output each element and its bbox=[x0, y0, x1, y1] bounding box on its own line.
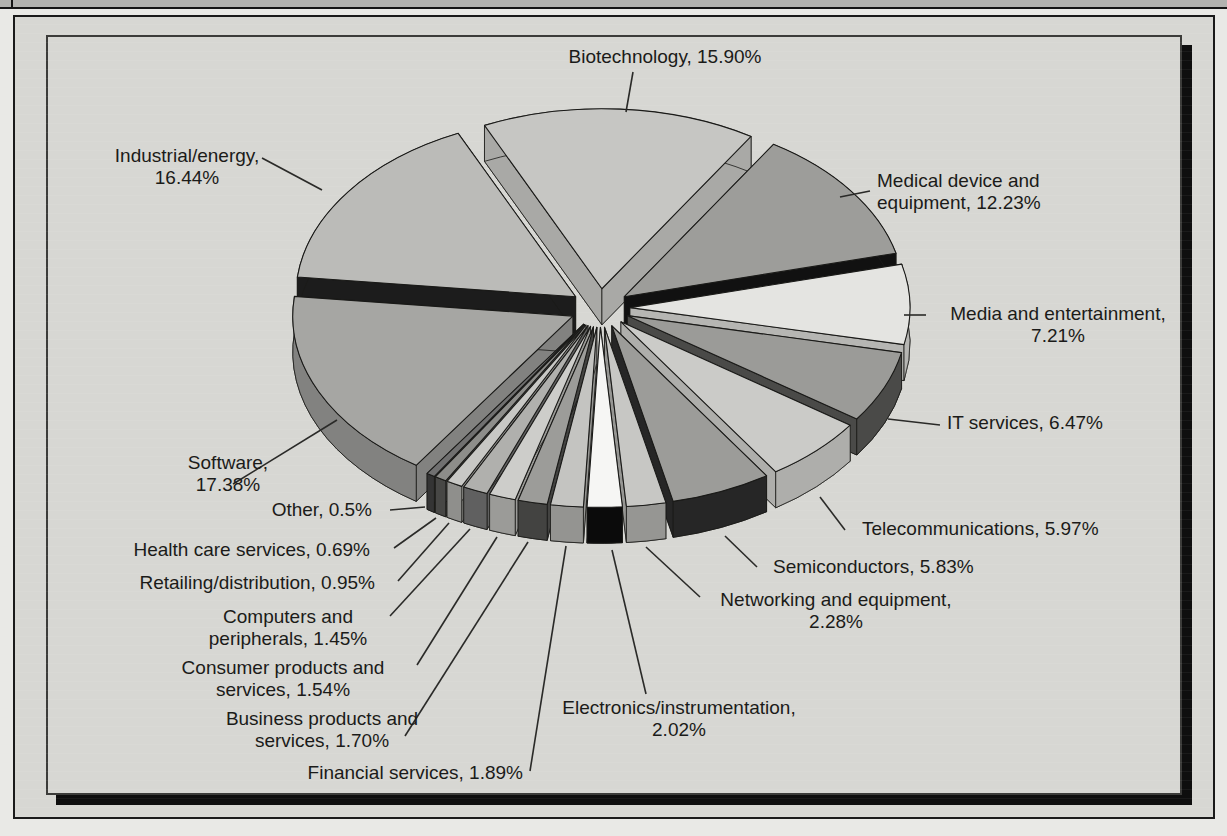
slice-label-line: 2.02% bbox=[562, 719, 795, 741]
slice-label-software: Software,17.38% bbox=[188, 452, 268, 495]
slice-label-telecommunications: Telecommunications, 5.97% bbox=[862, 518, 1099, 540]
slice-label-line: services, 1.70% bbox=[226, 730, 418, 752]
slice-label-business-products: Business products andservices, 1.70% bbox=[226, 708, 418, 751]
slice-label-line: IT services, 6.47% bbox=[947, 412, 1103, 434]
slice-label-line: 16.44% bbox=[115, 167, 259, 189]
slice-label-line: 17.38% bbox=[188, 474, 268, 496]
slice-label-line: Semiconductors, 5.83% bbox=[773, 556, 974, 578]
slice-label-consumer-products: Consumer products andservices, 1.54% bbox=[182, 657, 385, 700]
slice-label-computers-peripherals: Computers andperipherals, 1.45% bbox=[209, 606, 367, 649]
slice-label-health-care: Health care services, 0.69% bbox=[133, 539, 370, 561]
slice-label-line: Consumer products and bbox=[182, 657, 385, 679]
slice-label-line: Networking and equipment, bbox=[720, 589, 951, 611]
slice-label-line: Telecommunications, 5.97% bbox=[862, 518, 1099, 540]
slice-label-industrial-energy: Industrial/energy,16.44% bbox=[115, 145, 259, 188]
slice-label-line: Industrial/energy, bbox=[115, 145, 259, 167]
slice-label-it-services: IT services, 6.47% bbox=[947, 412, 1103, 434]
slice-label-line: Business products and bbox=[226, 708, 418, 730]
slice-label-media-entertainment: Media and entertainment,7.21% bbox=[950, 303, 1165, 346]
slice-label-line: Computers and bbox=[209, 606, 367, 628]
slice-label-other: Other, 0.5% bbox=[272, 499, 372, 521]
previous-figure-corner-tick bbox=[11, 0, 13, 7]
slice-label-line: 7.21% bbox=[950, 325, 1165, 347]
slice-label-electronics: Electronics/instrumentation,2.02% bbox=[562, 697, 795, 740]
slice-label-semiconductors: Semiconductors, 5.83% bbox=[773, 556, 974, 578]
slice-label-line: Electronics/instrumentation, bbox=[562, 697, 795, 719]
slice-label-line: Financial services, 1.89% bbox=[308, 762, 523, 784]
slice-label-line: equipment, 12.23% bbox=[877, 192, 1041, 214]
slice-label-networking: Networking and equipment,2.28% bbox=[720, 589, 951, 632]
previous-figure-edge bbox=[0, 0, 1227, 9]
slice-label-financial-services: Financial services, 1.89% bbox=[308, 762, 523, 784]
slice-label-line: Other, 0.5% bbox=[272, 499, 372, 521]
slice-label-medical-device: Medical device andequipment, 12.23% bbox=[877, 170, 1041, 213]
slice-label-line: Biotechnology, 15.90% bbox=[569, 46, 762, 68]
slice-label-line: 2.28% bbox=[720, 611, 951, 633]
slice-label-line: Retailing/distribution, 0.95% bbox=[139, 572, 375, 594]
slice-label-line: peripherals, 1.45% bbox=[209, 628, 367, 650]
slice-label-biotechnology: Biotechnology, 15.90% bbox=[569, 46, 762, 68]
slice-label-line: Medical device and bbox=[877, 170, 1041, 192]
slice-label-line: Software, bbox=[188, 452, 268, 474]
slice-label-line: Health care services, 0.69% bbox=[133, 539, 370, 561]
slice-label-retailing-distribution: Retailing/distribution, 0.95% bbox=[139, 572, 375, 594]
slice-label-line: Media and entertainment, bbox=[950, 303, 1165, 325]
slice-label-line: services, 1.54% bbox=[182, 679, 385, 701]
